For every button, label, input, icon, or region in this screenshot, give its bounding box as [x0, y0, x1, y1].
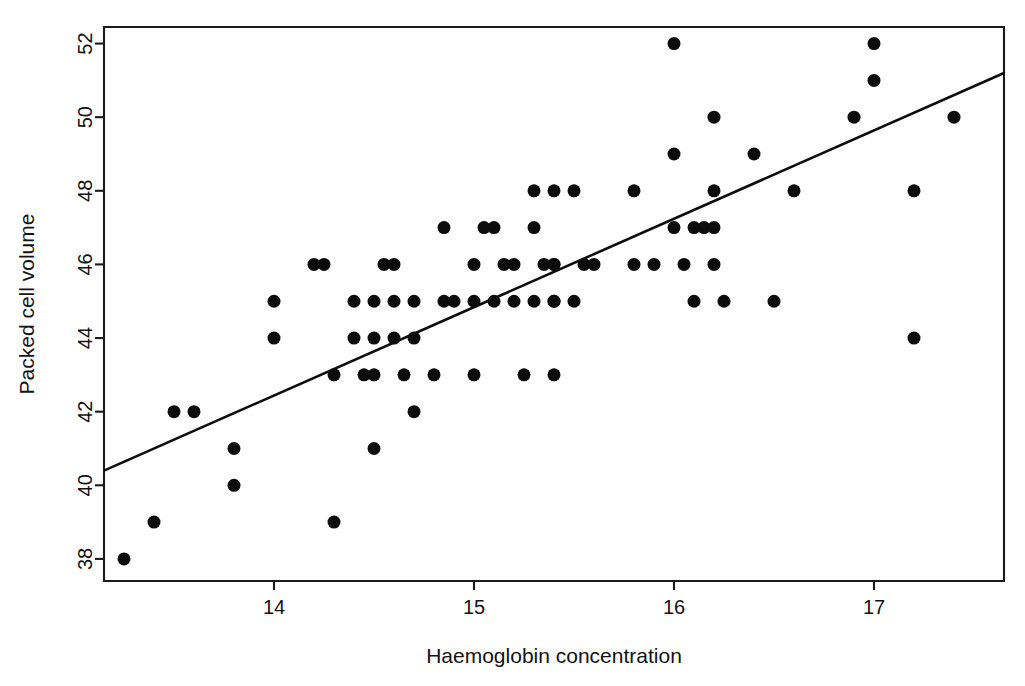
data-point [588, 258, 601, 271]
data-point [668, 221, 681, 234]
data-point [908, 332, 921, 345]
data-point [748, 148, 761, 161]
y-tick-label: 50 [74, 106, 96, 128]
data-point [408, 295, 421, 308]
data-point [948, 111, 961, 124]
data-point [548, 368, 561, 381]
data-point [368, 442, 381, 455]
x-tick-label: 15 [463, 596, 485, 618]
data-point [188, 405, 201, 418]
data-point [228, 479, 241, 492]
data-point [648, 258, 661, 271]
data-point [688, 295, 701, 308]
data-point [528, 295, 541, 308]
y-tick-label: 48 [74, 180, 96, 202]
data-point [488, 221, 501, 234]
data-point [448, 295, 461, 308]
data-point [528, 184, 541, 197]
data-point [628, 184, 641, 197]
data-point [348, 295, 361, 308]
data-point [168, 405, 181, 418]
y-tick-label: 52 [74, 32, 96, 54]
data-point [568, 295, 581, 308]
x-tick-label: 17 [863, 596, 885, 618]
data-point [718, 295, 731, 308]
data-point [668, 148, 681, 161]
data-point [708, 221, 721, 234]
data-point [268, 332, 281, 345]
y-axis-title: Packed cell volume [15, 214, 38, 395]
data-point [388, 295, 401, 308]
data-point [348, 332, 361, 345]
x-axis-title: Haemoglobin concentration [426, 644, 682, 667]
data-point [678, 258, 691, 271]
data-point [388, 258, 401, 271]
data-point [368, 295, 381, 308]
data-point [708, 184, 721, 197]
data-point [318, 258, 331, 271]
data-point [668, 37, 681, 50]
y-tick-label: 46 [74, 253, 96, 275]
data-point [628, 258, 641, 271]
data-point [848, 111, 861, 124]
data-point [518, 368, 531, 381]
data-point [428, 368, 441, 381]
data-point [468, 258, 481, 271]
data-point [868, 74, 881, 87]
scatter-plot-figure: 3840424446485052 14151617 Haemoglobin co… [0, 0, 1025, 686]
data-point [468, 368, 481, 381]
plot-canvas: 3840424446485052 14151617 Haemoglobin co… [0, 0, 1025, 686]
data-point [328, 516, 341, 529]
data-point [708, 111, 721, 124]
data-point [548, 184, 561, 197]
data-point [228, 442, 241, 455]
data-point [768, 295, 781, 308]
y-tick-label: 38 [74, 548, 96, 570]
data-point [368, 368, 381, 381]
data-point [708, 258, 721, 271]
data-point [268, 295, 281, 308]
x-tick-label: 16 [663, 596, 685, 618]
figure-background [0, 0, 1025, 686]
data-point [438, 221, 451, 234]
y-tick-label: 42 [74, 401, 96, 423]
y-tick-label: 40 [74, 474, 96, 496]
y-tick-label: 44 [74, 327, 96, 349]
data-point [148, 516, 161, 529]
data-point [568, 184, 581, 197]
data-point [408, 405, 421, 418]
data-point [788, 184, 801, 197]
x-tick-label: 14 [263, 596, 285, 618]
data-point [508, 295, 521, 308]
data-point [908, 184, 921, 197]
data-point [508, 258, 521, 271]
data-point [398, 368, 411, 381]
data-point [548, 295, 561, 308]
data-point [868, 37, 881, 50]
data-point [368, 332, 381, 345]
data-point [528, 221, 541, 234]
data-point [118, 552, 131, 565]
